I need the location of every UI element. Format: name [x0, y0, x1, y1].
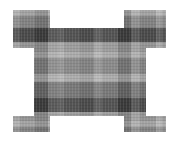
- weave-thread-horizontal: [0, 30, 176, 31]
- weave-thread-horizontal: [0, 33, 176, 34]
- weave-thread-horizontal: [0, 45, 176, 46]
- weave-thread-horizontal: [0, 39, 176, 40]
- plaid-cross-shape: Grayscale plaid textured cross shape: [0, 0, 176, 145]
- weave-thread-horizontal: [0, 36, 176, 37]
- image-canvas: Grayscale plaid textured cross shape: [0, 0, 176, 145]
- weave-thread-horizontal: [0, 42, 176, 43]
